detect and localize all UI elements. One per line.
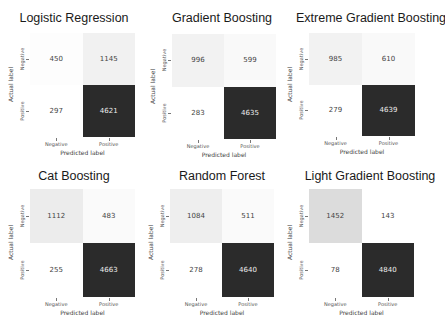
matrix-cell: 279 [309,85,362,137]
y-axis-label: Actual label [147,213,154,273]
x-axis-label: Predicted label [43,149,123,156]
y-axis-label: Actual label [286,213,293,273]
confusion-matrix-panel: Random Forest10845112784640NegativePosit… [148,163,296,326]
confusion-matrix-panel: Extreme Gradient Boosting9856102794639Ne… [296,0,444,163]
y-tick-mark [168,113,171,114]
matrix-cell: 450 [30,33,83,85]
y-tick-mark [305,270,308,271]
y-axis-label: Actual label [286,54,293,114]
y-tick-mark [166,216,169,217]
x-tick-label: Negative [315,301,355,307]
y-tick-label: Positive [19,96,25,126]
y-tick-mark [166,270,169,271]
confusion-matrix: 9965992834635 [172,34,276,139]
y-tick-mark [26,111,29,112]
y-tick-mark [305,216,308,217]
y-axis-label: Actual label [149,56,156,116]
y-tick-mark [305,110,308,111]
confusion-matrix: 1452143784840 [309,189,414,297]
matrix-cell: 1145 [83,33,136,85]
y-tick-label: Negative [298,201,304,231]
x-axis-label: Predicted label [322,309,402,316]
matrix-cell: 78 [309,243,362,297]
x-tick-label: Negative [176,301,216,307]
confusion-matrix-panel: Gradient Boosting9965992834635NegativePo… [148,0,296,163]
x-tick-label: Positive [228,301,268,307]
y-tick-mark [305,59,308,60]
matrix-cell: 4640 [222,243,274,297]
y-tick-label: Negative [19,201,25,231]
x-tick-label: Negative [36,301,76,307]
x-axis-label: Predicted label [182,309,262,316]
x-axis-label: Predicted label [184,151,264,158]
matrix-cell: 297 [30,85,83,137]
x-tick-label: Negative [36,141,76,147]
y-tick-label: Positive [161,98,167,128]
x-tick-label: Negative [178,143,218,149]
confusion-matrix: 9856102794639 [309,33,415,136]
confusion-matrix: 10845112784640 [170,189,274,297]
x-tick-label: Positive [368,301,408,307]
y-axis-label: Actual label [7,213,14,273]
matrix-cell: 610 [362,33,415,85]
x-tick-label: Positive [89,301,129,307]
matrix-cell: 255 [30,243,83,297]
matrix-cell: 1452 [309,189,362,243]
confusion-matrix-panel: Logistic Regression45011452974621Negativ… [0,0,148,163]
matrix-cell: 511 [222,189,274,243]
panel-title: Logistic Regression [0,11,148,25]
matrix-cell: 996 [172,34,224,87]
x-tick-label: Negative [316,140,356,146]
matrix-cell: 4840 [362,243,415,297]
matrix-cell: 278 [170,243,222,297]
x-tick-label: Positive [230,143,270,149]
matrix-cell: 985 [309,33,362,85]
y-tick-label: Negative [161,45,167,75]
confusion-matrix: 11124832554663 [30,189,135,297]
y-tick-mark [168,60,171,61]
panel-title: Random Forest [148,169,296,183]
panel-title: Light Gradient Boosting [296,169,444,183]
y-tick-label: Negative [298,44,304,74]
confusion-matrix-panel: Cat Boosting11124832554663NegativePositi… [0,163,148,326]
matrix-cell: 4663 [83,243,136,297]
panel-title: Cat Boosting [0,169,148,183]
y-tick-label: Positive [298,95,304,125]
x-axis-label: Predicted label [322,148,402,155]
x-tick-label: Positive [369,140,409,146]
y-tick-mark [26,59,29,60]
matrix-cell: 4621 [83,85,136,137]
matrix-cell: 143 [362,189,415,243]
y-tick-label: Positive [298,255,304,285]
matrix-cell: 483 [83,189,136,243]
x-axis-label: Predicted label [43,309,123,316]
matrix-cell: 4635 [224,87,276,140]
y-tick-label: Positive [19,255,25,285]
confusion-matrix: 45011452974621 [30,33,135,137]
matrix-cell: 4639 [362,85,415,137]
panel-title: Extreme Gradient Boosting [296,11,444,25]
matrix-cell: 1084 [170,189,222,243]
x-tick-label: Positive [89,141,129,147]
y-tick-mark [26,270,29,271]
matrix-cell: 599 [224,34,276,87]
y-tick-label: Negative [159,201,165,231]
y-tick-mark [26,216,29,217]
confusion-matrix-panel: Light Gradient Boosting1452143784840Nega… [296,163,444,326]
y-axis-label: Actual label [7,55,14,115]
panel-title: Gradient Boosting [148,11,296,25]
y-tick-label: Negative [19,44,25,74]
matrix-cell: 283 [172,87,224,140]
y-tick-label: Positive [159,255,165,285]
matrix-cell: 1112 [30,189,83,243]
